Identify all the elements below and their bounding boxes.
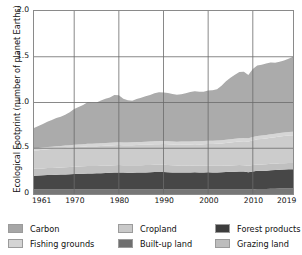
legend-item-built-up-land[interactable]: Built-up land (118, 236, 192, 251)
plot-inner (34, 11, 293, 194)
legend-row: Fishing groundsBuilt-up landGrazing land (8, 236, 298, 251)
legend-label: Fishing grounds (30, 239, 94, 249)
x-tick-label: 2000 (199, 197, 218, 205)
legend-label: Grazing land (237, 239, 289, 249)
legend-swatch-icon (215, 239, 230, 248)
ecological-footprint-chart-figure: Ecological Footprint (number of planet E… (0, 0, 302, 255)
x-tick-label: 1961 (32, 197, 51, 205)
legend-item-cropland[interactable]: Cropland (118, 221, 177, 236)
legend-row: CarbonCroplandForest products (8, 221, 298, 236)
legend-item-grazing-land[interactable]: Grazing land (215, 236, 289, 251)
legend-label: Cropland (140, 224, 177, 234)
legend-swatch-icon (118, 224, 133, 233)
legend-swatch-icon (8, 224, 23, 233)
legend-item-fishing-grounds[interactable]: Fishing grounds (8, 236, 94, 251)
legend-label: Forest products (237, 224, 300, 234)
legend-item-forest-products[interactable]: Forest products (215, 221, 300, 236)
legend-swatch-icon (8, 239, 23, 248)
y-axis-title: Ecological Footprint (number of planet E… (12, 4, 22, 194)
x-tick-label: 1990 (155, 197, 174, 205)
legend-swatch-icon (118, 239, 133, 248)
legend-item-carbon[interactable]: Carbon (8, 221, 60, 236)
plot-area (33, 10, 294, 195)
legend-swatch-icon (215, 224, 230, 233)
stacked-area-chart (34, 11, 293, 194)
chart-legend: CarbonCroplandForest productsFishing gro… (8, 221, 298, 253)
x-tick-label: 1970 (65, 197, 84, 205)
x-tick-label: 1980 (110, 197, 129, 205)
legend-label: Carbon (30, 224, 60, 234)
x-tick-label: 2010 (244, 197, 263, 205)
legend-label: Built-up land (140, 239, 192, 249)
x-tick-label: 2019 (277, 197, 296, 205)
